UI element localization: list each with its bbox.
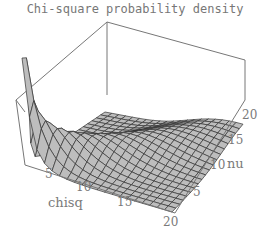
x-axis-label: chisq — [48, 195, 83, 210]
y-tick: 10 — [210, 158, 225, 172]
x-tick: 10 — [76, 180, 91, 194]
y-tick: 15 — [228, 133, 243, 147]
x-tick: 15 — [117, 195, 132, 209]
surface-mesh — [22, 58, 243, 212]
x-tick: 20 — [163, 215, 178, 229]
x-tick: 5 — [45, 167, 53, 181]
y-axis-label: nu — [227, 156, 244, 171]
surface-plot: 5 10 15 20 chisq 5 10 15 20 nu — [0, 0, 270, 240]
y-tick: 5 — [193, 185, 201, 199]
bounding-box-back — [16, 22, 245, 100]
y-tick: 20 — [242, 108, 257, 122]
